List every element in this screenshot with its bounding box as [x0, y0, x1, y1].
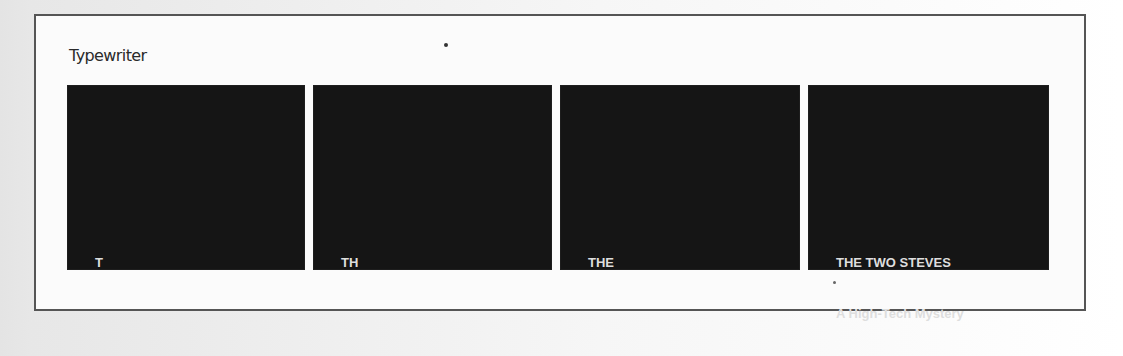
figure-frame: Typewriter T TH THE THE TWO STEVES A Hig… — [34, 14, 1086, 311]
frame-2-text: TH — [341, 220, 363, 305]
figure-title: Typewriter — [69, 46, 147, 66]
frame-1-text: T — [95, 220, 117, 305]
typewriter-frame-1: T — [67, 85, 305, 270]
scan-speck — [833, 281, 836, 284]
frame-2-line-1: TH — [341, 254, 363, 271]
frame-4-line-1: THE TWO STEVES — [836, 254, 964, 271]
scan-speck — [444, 43, 448, 47]
typewriter-frame-2: TH — [313, 85, 552, 270]
frame-3-line-1: THE — [588, 254, 614, 271]
frame-4-line-2: A High-Tech Mystery — [836, 305, 964, 322]
frame-3-text: THE — [588, 220, 614, 305]
typewriter-frame-4: THE TWO STEVES A High-Tech Mystery — [808, 85, 1049, 270]
frame-4-text: THE TWO STEVES A High-Tech Mystery — [836, 220, 964, 356]
frame-1-line-1: T — [95, 254, 117, 271]
typewriter-frame-3: THE — [560, 85, 800, 270]
